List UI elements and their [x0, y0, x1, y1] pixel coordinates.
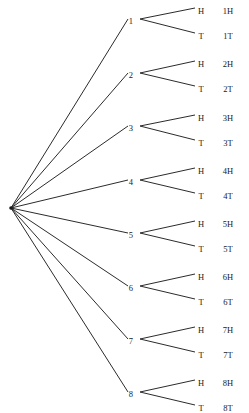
branch-label-1H: H: [198, 6, 204, 16]
node-label-1: 1: [129, 16, 133, 26]
branch-label-3H: H: [198, 113, 204, 123]
probability-tree-diagram: 12345678 HTHTHTHTHTHTHTHT 1H1T2H2T3H3T4H…: [0, 0, 249, 413]
edge-root-to-node-5: [11, 208, 128, 233]
branch-label-4T: T: [198, 191, 204, 201]
branch-label-8T: T: [198, 403, 204, 413]
branch-label-5T: T: [198, 244, 204, 254]
edge-node-to-leaf-7: [140, 168, 195, 180]
branch-label-7T: T: [198, 350, 204, 360]
root-node-dot: [9, 206, 13, 210]
edge-root-to-node-4: [11, 180, 128, 208]
branch-label-2H: H: [198, 59, 204, 69]
outcome-label-6T: 6T: [223, 297, 233, 307]
edge-root-to-node-6: [11, 208, 128, 286]
edge-node-to-leaf-16: [140, 392, 195, 405]
edge-node-to-leaf-10: [140, 233, 195, 246]
outcome-label-6H: 6H: [223, 272, 233, 282]
edge-node-to-leaf-13: [140, 327, 195, 339]
edge-root-to-node-2: [11, 73, 128, 208]
stage1-node-labels: 12345678: [129, 16, 134, 399]
branch-label-4H: H: [198, 166, 204, 176]
branch-label-8H: H: [198, 378, 204, 388]
edge-node-to-leaf-1: [140, 8, 195, 19]
edge-root-to-node-8: [11, 208, 128, 392]
edge-node-to-leaf-15: [140, 380, 195, 392]
root-node: [9, 206, 13, 210]
branch-label-1T: T: [198, 31, 204, 41]
outcome-label-8T: 8T: [223, 403, 233, 413]
edge-node-to-leaf-14: [140, 339, 195, 352]
node-label-4: 4: [129, 177, 134, 187]
outcome-label-2T: 2T: [223, 84, 233, 94]
edge-node-to-leaf-8: [140, 180, 195, 193]
edge-root-to-node-3: [11, 126, 128, 208]
branch-label-3T: T: [198, 138, 204, 148]
edge-root-to-node-7: [11, 208, 128, 339]
node-label-7: 7: [129, 336, 133, 346]
outcome-label-4H: 4H: [223, 166, 233, 176]
branch-label-5H: H: [198, 219, 204, 229]
edge-node-to-leaf-12: [140, 286, 195, 299]
root-to-node-edges: [11, 19, 128, 392]
stage2-branch-labels: HTHTHTHTHTHTHTHT: [198, 6, 204, 413]
outcome-label-2H: 2H: [223, 59, 233, 69]
outcome-labels: 1H1T2H2T3H3T4H4T5H5T6H6T7H7T8H8T: [223, 6, 234, 413]
node-to-leaf-edges: [140, 8, 195, 405]
outcome-label-5H: 5H: [223, 219, 233, 229]
node-label-3: 3: [129, 123, 133, 133]
edge-node-to-leaf-2: [140, 19, 195, 33]
branch-label-6T: T: [198, 297, 204, 307]
edge-node-to-leaf-5: [140, 115, 195, 126]
branch-label-6H: H: [198, 272, 204, 282]
outcome-label-3T: 3T: [223, 138, 233, 148]
outcome-label-4T: 4T: [223, 191, 233, 201]
node-label-6: 6: [129, 283, 133, 293]
outcome-label-3H: 3H: [223, 113, 233, 123]
outcome-label-7H: 7H: [223, 325, 233, 335]
edge-node-to-leaf-9: [140, 221, 195, 233]
edge-node-to-leaf-4: [140, 73, 195, 86]
tree-diagram-canvas: 12345678 HTHTHTHTHTHTHTHT 1H1T2H2T3H3T4H…: [0, 0, 249, 413]
edge-root-to-node-1: [11, 19, 128, 208]
edge-node-to-leaf-3: [140, 61, 195, 73]
node-label-8: 8: [129, 389, 133, 399]
edge-node-to-leaf-11: [140, 274, 195, 286]
node-label-2: 2: [129, 70, 133, 80]
outcome-label-8H: 8H: [223, 378, 233, 388]
outcome-label-1H: 1H: [223, 6, 233, 16]
outcome-label-5T: 5T: [223, 244, 233, 254]
outcome-label-7T: 7T: [223, 350, 233, 360]
node-label-5: 5: [129, 230, 133, 240]
branch-label-7H: H: [198, 325, 204, 335]
edge-node-to-leaf-6: [140, 126, 195, 140]
branch-label-2T: T: [198, 84, 204, 94]
outcome-label-1T: 1T: [223, 31, 233, 41]
